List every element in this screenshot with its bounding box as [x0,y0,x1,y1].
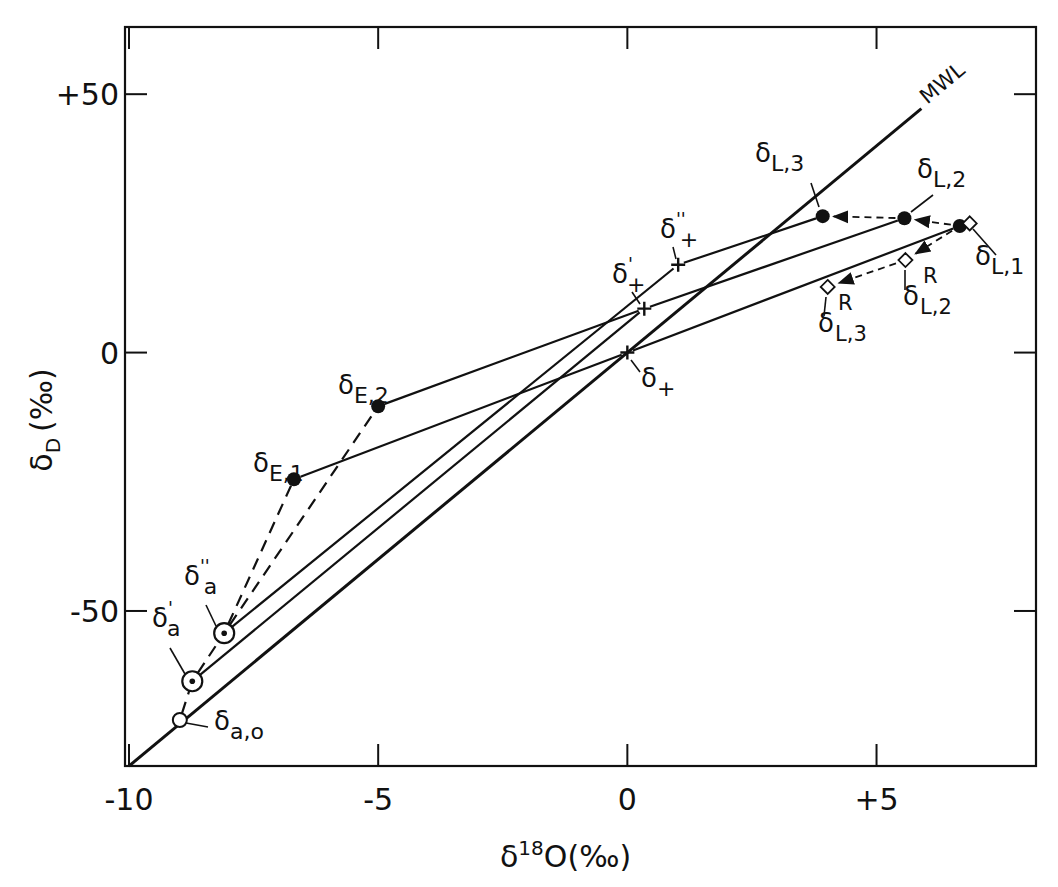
label-a0: δa,o [214,706,264,744]
dashed-arrow [839,263,896,283]
point-a2 [214,623,234,643]
dashed-arrow [834,216,896,218]
point-L2 [897,211,911,225]
mwl-label: MWL [915,58,969,109]
svg-text:δD(‰): δD(‰) [24,368,65,471]
diamond-marker [821,280,835,294]
dashed-line [182,691,189,714]
label-L3: δL,3 [755,138,804,176]
chart-canvas: -10-50+5+500-50 MWLδa,oδ'aδ''aδE,1δE,2δ+… [0,0,1058,887]
label-E2: δE,2 [338,370,389,408]
filled-circle-marker [816,209,830,223]
x-tick-label: 0 [618,782,637,817]
point-labels: MWLδa,oδ'aδ''aδE,1δE,2δ+δ'+δ''+δL,1δL,2δ… [152,58,1024,744]
solid-line [200,312,640,674]
x-tick-label: -10 [105,782,154,817]
label-L2: δL,2 [917,154,966,192]
label-a1: δ'a [152,597,180,641]
point-a0 [173,713,187,727]
x-tick-label: -5 [363,782,393,817]
label-L1: δL,1 [975,241,1024,279]
point-a1 [182,671,202,691]
solid-line [385,311,639,404]
filled-circle-marker [897,211,911,225]
label-E1: δE,1 [253,448,304,486]
leader-line [631,360,640,372]
isotope-evaporation-chart: -10-50+5+500-50 MWLδa,oδ'aδ''aδE,1δE,2δ+… [0,0,1058,887]
label-a2: δ''a [184,555,217,599]
y-tick-label: -50 [70,594,119,629]
y-tick-label: 0 [100,336,119,371]
label-L2R: δRL,2 [903,264,952,319]
point-L3R [821,280,835,294]
point-L2R [898,253,912,267]
y-tick-label: +50 [56,77,119,112]
label-p1: δ'+ [612,253,645,297]
label-p2: δ''+ [660,208,698,252]
leader-line [911,195,933,212]
leader-line [170,648,185,674]
mwl-line [129,109,921,766]
dashed-arrow [916,231,953,254]
x-tick-label: +5 [854,782,898,817]
dashed-arrow [915,220,951,225]
label-p0: δ+ [641,363,675,401]
dashed-line [230,412,374,625]
leader-line [186,723,208,727]
y-axis-title: δD(‰) [24,368,65,471]
data-lines [129,109,953,766]
leader-line [673,247,676,259]
x-axis-title: δ18O(‰) [500,836,631,874]
open-circle-marker [173,713,187,727]
leader-line [206,605,216,626]
diamond-marker [898,253,912,267]
point-L3 [816,209,830,223]
